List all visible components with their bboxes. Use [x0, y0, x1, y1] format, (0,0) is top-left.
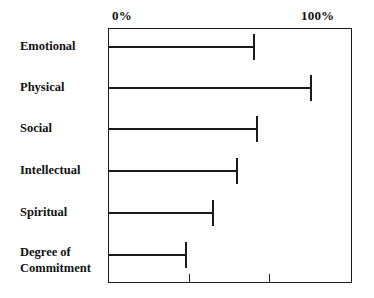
x-axis-minor-tick — [189, 274, 190, 283]
category-label-line: Emotional — [20, 40, 76, 53]
bar-end-cap — [212, 200, 214, 226]
bar-end-cap — [310, 75, 312, 101]
x-axis-minor-tick — [269, 274, 270, 283]
bar-line — [108, 254, 186, 256]
category-label-line: Social — [20, 122, 52, 135]
plot-area — [108, 28, 352, 283]
category-label: Social — [20, 122, 52, 135]
bar-line — [108, 87, 311, 89]
bar-end-cap — [236, 158, 238, 184]
category-label: Physical — [20, 81, 64, 94]
category-label-line: Physical — [20, 81, 64, 94]
category-label: Degree ofCommitment — [20, 246, 91, 274]
bar-end-cap — [253, 34, 255, 60]
category-label: Intellectual — [20, 164, 80, 177]
category-label: Emotional — [20, 40, 76, 53]
bar-line — [108, 212, 213, 214]
category-label-line: Degree of — [20, 246, 91, 259]
horizontal-bar-chart: 0% 100% EmotionalPhysicalSocialIntellect… — [0, 0, 374, 298]
category-label-line: Commitment — [20, 262, 91, 275]
category-label: Spiritual — [20, 206, 67, 219]
x-axis-tick-label-0: 0% — [112, 8, 132, 24]
bar-end-cap — [256, 116, 258, 142]
bar-line — [108, 170, 237, 172]
bar-line — [108, 46, 254, 48]
category-label-line: Intellectual — [20, 164, 80, 177]
category-label-line: Spiritual — [20, 206, 67, 219]
bar-end-cap — [185, 242, 187, 268]
bar-line — [108, 128, 257, 130]
x-axis-tick-label-100: 100% — [301, 8, 334, 24]
